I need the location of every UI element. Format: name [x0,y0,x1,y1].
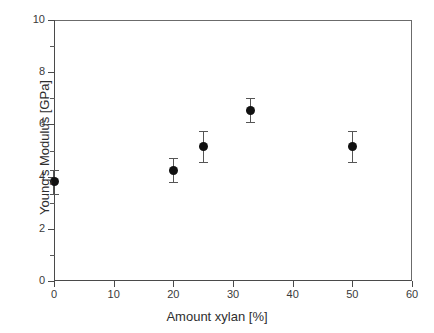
error-bar-cap [348,131,357,132]
x-axis-tick-label: 50 [332,288,372,300]
error-bar-cap [169,182,178,183]
data-point [199,142,208,151]
x-axis-tick [114,281,115,287]
error-bar-cap [246,98,255,99]
x-axis-tick [352,281,353,287]
x-axis-tick-label: 20 [153,288,193,300]
x-axis-tick-label: 40 [273,288,313,300]
error-bar-cap [169,158,178,159]
data-point [169,166,178,175]
x-axis-tick-label: 10 [94,288,134,300]
x-axis-tick [173,281,174,287]
plot-area [54,20,412,281]
x-axis-tick [293,281,294,287]
error-bar-cap [246,122,255,123]
chart-figure: 0246810 0102030405060 Young's Modulus [G… [0,0,434,333]
data-point [246,106,255,115]
x-axis-tick [54,281,55,287]
x-axis-tick-label: 30 [213,288,253,300]
error-bar-cap [199,131,208,132]
x-axis-tick-label: 0 [34,288,74,300]
x-axis-tick [233,281,234,287]
error-bar-cap [348,162,357,163]
x-axis-title: Amount xylan [%] [0,309,434,324]
x-axis-tick-label: 60 [392,288,432,300]
x-axis-tick [412,281,413,287]
data-point [348,142,357,151]
y-axis-title: Young's Modulus [GPa] [37,18,52,278]
error-bar-cap [199,162,208,163]
